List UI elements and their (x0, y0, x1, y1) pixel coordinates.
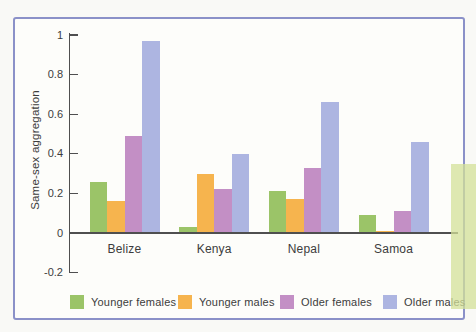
y-tick-mark (70, 272, 78, 273)
legend-swatch (280, 295, 294, 309)
legend-label: Older females (301, 296, 372, 308)
chart-bar (142, 41, 160, 233)
y-tick-label: -0.2 (18, 266, 63, 279)
chart-bar (125, 136, 143, 233)
x-axis-label: Belize (80, 242, 170, 256)
y-tick-label: 0 (18, 227, 63, 240)
legend-entry: Younger females (70, 295, 176, 309)
chart-legend: Younger femalesYounger malesOlder female… (0, 295, 476, 313)
y-tick-label: 0.4 (18, 147, 63, 160)
chart-bar (232, 154, 250, 233)
chart-bar (304, 168, 322, 233)
chart-bar (90, 182, 108, 233)
x-axis-label: Nepal (259, 242, 349, 256)
legend-swatch (70, 295, 84, 309)
chart-bar (394, 211, 412, 233)
y-tick-label: 0.8 (18, 68, 63, 81)
y-tick-label: 0.2 (18, 187, 63, 200)
chart-bar (269, 191, 287, 233)
chart-bar (286, 199, 304, 233)
page-accent-strip (451, 164, 476, 309)
legend-label: Younger females (91, 296, 176, 308)
chart-bar (197, 174, 215, 233)
y-tick-label: 0.6 (18, 108, 63, 121)
legend-swatch (383, 295, 397, 309)
x-axis-line (70, 232, 458, 233)
y-tick-label: 1 (18, 29, 63, 42)
legend-label: Younger males (199, 296, 275, 308)
chart-bar (214, 189, 232, 233)
x-axis-label: Kenya (169, 242, 259, 256)
y-tick-mark (70, 74, 78, 75)
chart-bar (411, 142, 429, 233)
y-tick-mark (70, 34, 78, 35)
bar-chart: Same-sex aggregation 10.80.60.40.20-0.2 … (0, 0, 476, 332)
y-tick-mark (70, 114, 78, 115)
legend-entry: Older females (280, 295, 372, 309)
y-tick-mark (70, 193, 78, 194)
chart-bar (321, 102, 339, 233)
legend-swatch (178, 295, 192, 309)
x-axis-label: Samoa (349, 242, 439, 256)
chart-bar (359, 215, 377, 233)
chart-bar (107, 201, 125, 233)
y-tick-mark (70, 153, 78, 154)
legend-entry: Younger males (178, 295, 275, 309)
